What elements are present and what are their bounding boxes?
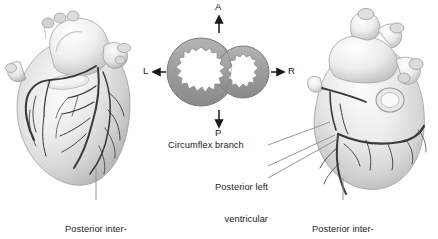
coronary-arteries-figure: A P L R Circumflex branch Posterior left… [0,0,438,239]
label-line: Posterior inter- [283,224,403,235]
leader-posterior-lv-1 [268,135,335,166]
label-circumflex-branch: Circumflex branch [168,140,244,151]
label-posterior-left-ventricular-branch: Posterior left ventricular branch [148,161,268,239]
orientation-label-anterior: A [215,2,221,12]
leader-posterior-lv-2 [268,140,336,178]
label-line: ventricular [148,214,268,225]
orientation-label-left: L [143,66,148,76]
orientation-label-posterior: P [215,128,221,138]
label-line: Posterior inter- [36,224,156,235]
label-line: Posterior left [148,182,268,193]
label-posterior-interventricular-branch-left: Posterior inter- ventricular branch [36,203,156,239]
orientation-label-right: R [288,66,295,76]
label-posterior-interventricular-branch-right: Posterior inter- ventricular branch [283,203,403,239]
